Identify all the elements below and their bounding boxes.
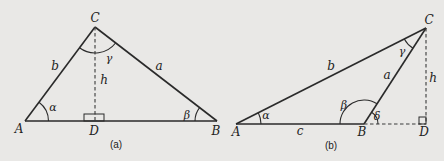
- angle-label-beta-a: β: [184, 110, 190, 121]
- angle-alpha-arc-a: [39, 102, 49, 121]
- side-label-a-b: a: [383, 69, 390, 81]
- angle-label-alpha-b: α: [262, 110, 269, 121]
- side-a-a: [95, 27, 217, 121]
- right-angle-marker-a: [84, 114, 104, 121]
- figure-caption-a: (a): [110, 140, 122, 150]
- vertex-label-c-b: C: [424, 14, 433, 26]
- vertex-label-b-b: B: [358, 126, 367, 138]
- side-label-c-b: c: [297, 125, 304, 137]
- vertex-label-d-a: D: [89, 125, 99, 137]
- angle-alpha-arc-b: [258, 113, 261, 124]
- vertex-label-a-b: A: [232, 126, 241, 138]
- angle-label-delta-b: δ: [374, 111, 381, 122]
- side-label-b-a: b: [51, 60, 59, 72]
- height-label-h-b: h: [429, 72, 437, 84]
- angle-label-beta-b: β: [341, 100, 347, 111]
- angle-label-alpha-a: α: [49, 102, 56, 113]
- right-angle-marker-b: [419, 117, 426, 124]
- side-label-a-a: a: [155, 60, 162, 72]
- vertex-label-a-a: A: [15, 123, 24, 135]
- vertex-label-c-a: C: [90, 12, 99, 24]
- triangle-diagrams: C A D B b a h γ α β (a) C A c B D b a h …: [0, 0, 444, 161]
- angle-label-gamma-a: γ: [106, 53, 113, 64]
- side-b-a: [25, 27, 95, 121]
- angle-beta-arc-a: [195, 108, 200, 121]
- figure-caption-b: (b): [325, 141, 337, 151]
- angle-label-gamma-b: γ: [399, 46, 406, 57]
- vertex-label-b-a: B: [212, 125, 221, 137]
- vertex-label-d-b: D: [419, 126, 429, 138]
- diagram-graphics: [0, 0, 444, 161]
- height-label-h-a: h: [100, 74, 108, 86]
- side-label-b-b: b: [327, 60, 335, 72]
